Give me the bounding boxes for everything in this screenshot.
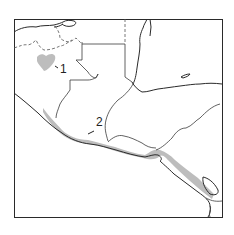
border-guatemala-north xyxy=(56,42,98,118)
belize-coastline xyxy=(133,19,151,84)
range-area-1 xyxy=(37,54,55,71)
border-elsalvador-honduras xyxy=(108,135,156,148)
label-1: 1 xyxy=(60,62,67,76)
island xyxy=(181,74,190,78)
label-2: 2 xyxy=(96,115,103,129)
border-guatemala-honduras xyxy=(105,84,133,141)
leader-line-1 xyxy=(55,66,58,68)
border-dashed-2 xyxy=(55,26,82,44)
range-map: 1 2 xyxy=(0,0,234,235)
map-frame xyxy=(15,20,223,218)
caribbean-coastline xyxy=(132,82,222,92)
border-honduras-nicaragua xyxy=(156,104,220,150)
border-dashed-1 xyxy=(14,40,72,50)
leader-line-2 xyxy=(88,131,94,134)
border-mexico-belize xyxy=(82,44,132,82)
gulf-coastline xyxy=(14,20,76,32)
